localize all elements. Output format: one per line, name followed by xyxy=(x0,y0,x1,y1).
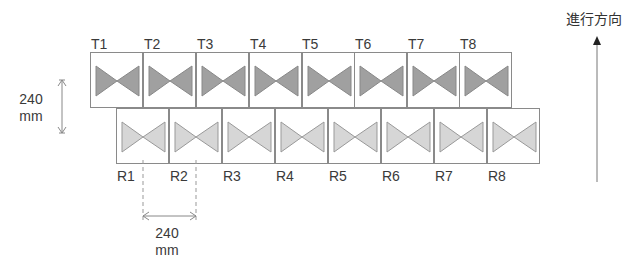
dimension-lines xyxy=(0,0,637,272)
vertical-dimension-label: 240 mm xyxy=(14,91,48,125)
horizontal-dimension-label: 240 mm xyxy=(150,225,184,259)
vertical-dimension-unit: mm xyxy=(14,108,48,125)
vertical-dimension-value: 240 xyxy=(14,91,48,108)
horizontal-dimension-value: 240 xyxy=(150,225,184,242)
horizontal-dimension-unit: mm xyxy=(150,242,184,259)
